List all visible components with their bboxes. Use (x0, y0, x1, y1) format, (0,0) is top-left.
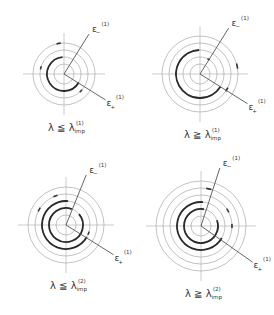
eps-minus-label: ε−(1) (92, 21, 109, 35)
arrow-mark (40, 66, 41, 69)
panel-caption: λ ≦ λimp(2) (50, 278, 87, 293)
arrow-mark (227, 209, 229, 213)
arrow-mark (38, 208, 40, 212)
panel-2: ε−(1)ε+(1)λ ≧ λimp(1) (152, 15, 266, 142)
eps-minus-ray (66, 175, 86, 225)
panel-1: ε−(1)ε+(1)λ ≦ λimp(1) (23, 21, 124, 135)
panel-3: ε−(1)ε+(1)λ ≦ λimp(2) (18, 162, 132, 293)
eps-plus-label: ε+(1) (114, 249, 131, 265)
arrow-mark (237, 64, 238, 69)
arrow-mark (206, 188, 211, 189)
arrow-mark (57, 43, 61, 44)
eps-minus-ray (201, 168, 220, 226)
panel-caption: λ ≧ λimp(1) (184, 127, 221, 142)
eps-plus-label: ε+(1) (248, 98, 265, 114)
eps-plus-label: ε+(1) (107, 94, 124, 110)
arrow-mark (80, 90, 82, 92)
diagram-canvas: ε−(1)ε+(1)λ ≦ λimp(1)ε−(1)ε+(1)λ ≧ λimp(… (0, 0, 274, 315)
eps-plus-ray (64, 74, 106, 100)
eps-minus-ray (200, 28, 229, 74)
arrow-mark (53, 195, 57, 196)
panel-4: ε−(1)ε+(1)λ ≧ λimp(2) (146, 155, 271, 301)
eps-minus-label: ε−(1) (232, 15, 249, 29)
eps-minus-ray (64, 34, 89, 74)
panel-caption: λ ≦ λimp(1) (48, 120, 85, 135)
eps-plus-label: ε+(1) (254, 256, 271, 272)
eps-minus-label: ε−(1) (223, 155, 240, 169)
eps-minus-label: ε−(1) (89, 162, 106, 176)
eps-plus-ray (201, 226, 253, 262)
arrow-mark (88, 232, 89, 235)
panel-caption: λ ≧ λimp(2) (185, 286, 222, 301)
